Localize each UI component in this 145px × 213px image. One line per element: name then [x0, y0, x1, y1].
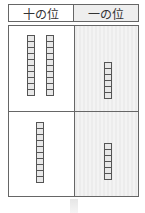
unit-cube	[27, 89, 35, 96]
place-value-board	[8, 25, 139, 197]
row2-tens-cell	[9, 111, 74, 196]
unit-cube	[46, 89, 54, 96]
ten-rod	[36, 122, 44, 183]
unit-cube	[36, 176, 44, 183]
row1-tens-cell	[9, 26, 74, 111]
unit-cube	[104, 173, 112, 180]
ones-cubes	[104, 62, 112, 99]
down-arrow-icon	[70, 199, 78, 213]
ones-cubes	[104, 143, 112, 180]
header-tens-place: 十の位	[8, 4, 74, 22]
unit-cube	[104, 92, 112, 99]
ten-rod	[46, 35, 54, 96]
row2-ones-cell	[74, 111, 138, 196]
header-ones-place: 一の位	[73, 4, 139, 22]
row1-ones-cell	[74, 26, 138, 111]
ten-rod	[27, 35, 35, 96]
